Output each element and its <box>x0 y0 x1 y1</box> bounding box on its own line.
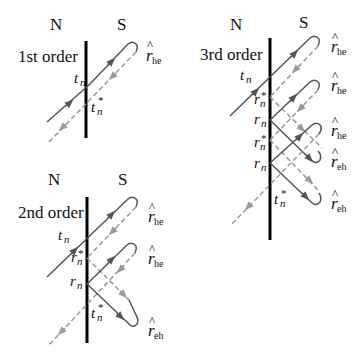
svg-text:he: he <box>152 55 162 66</box>
arrow-icon <box>108 61 112 65</box>
point-label-tn: t n <box>240 67 252 85</box>
svg-text:n: n <box>64 233 70 245</box>
svg-text:he: he <box>337 46 347 57</box>
panel-second-order: N S 2nd order t n r n * <box>18 170 164 345</box>
arrow-icon <box>120 291 124 295</box>
star-superscript: * <box>261 89 267 101</box>
point-label-tn-star: t n * <box>91 94 104 117</box>
label-S: S <box>117 15 126 34</box>
svg-text:n: n <box>246 73 252 85</box>
svg-text:eh: eh <box>337 161 346 172</box>
svg-text:he: he <box>337 130 347 141</box>
hole-path <box>270 140 320 192</box>
arrow-icon <box>112 73 116 77</box>
svg-text:eh: eh <box>154 330 163 341</box>
star-superscript: * <box>281 187 287 199</box>
star-superscript: * <box>98 301 104 313</box>
point-label-rn-star: r n * <box>71 247 84 267</box>
svg-text:t: t <box>74 70 79 86</box>
label-S: S <box>118 170 127 189</box>
arrow-icon <box>290 97 294 101</box>
svg-text:t: t <box>274 191 279 207</box>
point-label-tn-star: t n * <box>274 187 287 209</box>
svg-text:t: t <box>240 67 245 83</box>
point-label-rn: r n <box>254 111 267 129</box>
svg-text:r: r <box>254 111 260 127</box>
star-superscript: * <box>261 132 267 144</box>
star-superscript: * <box>98 94 104 106</box>
arrow-icon <box>112 228 116 232</box>
label-S: S <box>299 13 308 32</box>
panel-title: 1st order <box>18 47 78 66</box>
panel-title: 3rd order <box>200 45 263 64</box>
svg-text:t: t <box>58 227 63 243</box>
loop-label-r-eh: ^ r eh <box>331 144 346 172</box>
svg-text:he: he <box>154 258 164 269</box>
svg-text:r: r <box>254 155 260 171</box>
point-label-rn-star: r n * <box>254 89 267 109</box>
svg-text:n: n <box>80 76 86 88</box>
loop-label-r-eh: ^ r eh <box>331 186 346 214</box>
svg-text:eh: eh <box>337 203 346 214</box>
svg-text:n: n <box>261 117 267 129</box>
svg-text:n: n <box>97 105 103 117</box>
arrow-icon <box>306 155 310 159</box>
loop-label-r-he: ^ r he <box>331 113 347 141</box>
point-label-rn-star: r n * <box>254 132 267 152</box>
point-label-rn: r n <box>70 273 83 291</box>
star-superscript: * <box>78 247 84 259</box>
loop-label-r-eh: ^ r eh <box>148 313 163 341</box>
andreev-reflection-diagram: N S 1st order t n t n * ^ r he N S 2nd o… <box>0 0 362 360</box>
loop-label-r-he: ^ r he <box>146 37 162 66</box>
loop-label-r-he: ^ r he <box>331 29 347 57</box>
label-N: N <box>48 170 60 189</box>
arrow-icon <box>306 177 310 181</box>
panel-first-order: N S 1st order t n t n * ^ r he <box>18 15 162 142</box>
svg-text:n: n <box>77 279 83 291</box>
arrow-icon <box>61 328 65 332</box>
label-N: N <box>50 15 62 34</box>
panel-title: 2nd order <box>18 203 84 222</box>
hole-path <box>230 134 319 226</box>
electron-path <box>270 123 321 163</box>
loop-label-r-he: ^ r he <box>148 241 164 269</box>
arrow-icon <box>295 66 299 70</box>
loop-label-r-he: ^ r he <box>331 68 347 96</box>
point-label-rn: r n <box>254 155 267 173</box>
svg-text:he: he <box>154 216 164 227</box>
label-N: N <box>230 15 242 34</box>
point-label-tn: t n <box>58 227 70 245</box>
svg-text:he: he <box>337 85 347 96</box>
arrow-icon <box>300 105 304 109</box>
svg-text:n: n <box>261 161 267 173</box>
svg-text:r: r <box>70 273 76 289</box>
svg-text:t: t <box>91 99 96 115</box>
point-label-tn-star: t n * <box>91 301 104 323</box>
loop-label-r-he: ^ r he <box>148 199 164 227</box>
panel-third-order: N S 3rd order <box>200 13 347 240</box>
point-label-tn: t n <box>74 70 86 88</box>
svg-text:t: t <box>91 305 96 321</box>
